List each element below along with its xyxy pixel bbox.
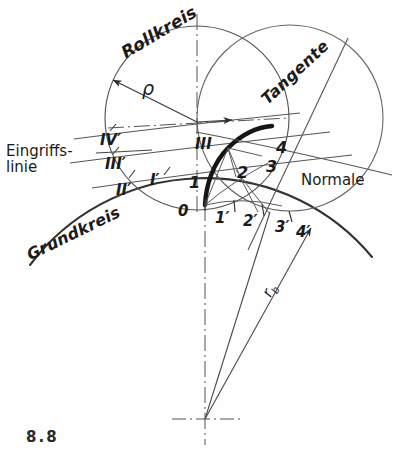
label-eingriffslinie: Eingriffs- linie	[6, 143, 73, 175]
base-circle-mark-0: 0	[178, 203, 188, 219]
figure-canvas: Rollkreis Grundkreis Tangente Normale Ei…	[0, 0, 413, 450]
arabic-mark-2: 3	[266, 158, 277, 175]
diagram-vector-layer	[0, 0, 413, 450]
base-circle-mark-2: 2′	[243, 213, 257, 229]
label-eingriffslinie-line2: linie	[6, 159, 73, 175]
arabic-mark-0: 1	[189, 174, 200, 191]
radius-to-3prime	[205, 212, 270, 419]
eingriffslinie-leader	[96, 150, 152, 153]
label-rho-symbol: ρ	[142, 78, 154, 99]
figure-caption: 8.8	[26, 428, 59, 446]
label-eingriffslinie-line1: Eingriffs-	[6, 143, 73, 159]
roman-mark-1: II′	[116, 182, 131, 198]
base-circle-mark-3: 3′	[275, 219, 289, 235]
label-normale: Normale	[301, 172, 365, 188]
roman-mark-3: IV′	[100, 132, 121, 148]
rho-arrow-left	[113, 80, 197, 122]
base-circle-mark-4: 4′	[296, 224, 310, 240]
radius-rb-to-4prime	[205, 228, 311, 419]
roman-mark-2: III′	[105, 156, 126, 172]
arabic-mark-1: 2	[237, 164, 248, 181]
roman-mark-0: I′	[150, 172, 160, 188]
roman-mark-4: III	[195, 136, 212, 152]
arabic-mark-3: 4	[276, 139, 287, 156]
base-circle-mark-1: 1′	[215, 210, 229, 226]
